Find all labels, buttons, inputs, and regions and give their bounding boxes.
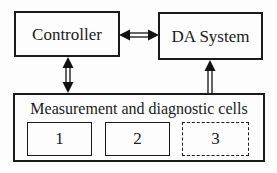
da-system-box: DA System (158, 12, 263, 60)
block-diagram: Controller DA System Measurement and dia… (0, 0, 277, 173)
measurement-cells-box: Measurement and diagnostic cells 1 2 3 (13, 93, 265, 162)
controller-dasystem-arrow-icon (119, 28, 159, 42)
cell-1-label: 1 (55, 129, 64, 149)
cell-2-box: 2 (105, 122, 170, 156)
cells-box-title: Measurement and diagnostic cells (15, 101, 263, 117)
da-system-label: DA System (172, 28, 250, 45)
cell-3-box: 3 (182, 122, 249, 156)
cell-2-label: 2 (133, 129, 142, 149)
cell-1-box: 1 (27, 122, 92, 156)
cells-dasystem-arrow-icon (203, 60, 217, 93)
controller-cells-arrow-icon (61, 57, 75, 93)
controller-label: Controller (32, 26, 102, 43)
controller-box: Controller (14, 11, 120, 57)
cell-3-label: 3 (211, 129, 220, 149)
